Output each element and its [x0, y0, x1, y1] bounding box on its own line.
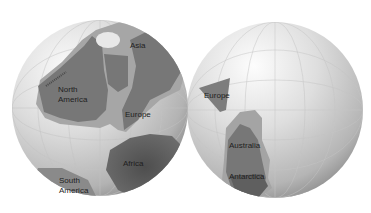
label-africa: Africa [123, 159, 144, 168]
label-north: North [58, 85, 78, 94]
label-asia: Asia [130, 41, 146, 50]
label-america: America [58, 95, 88, 104]
globes-illustration: Europe Australia Antarctica [0, 0, 371, 213]
label-south: South [59, 176, 80, 185]
label-antarctica: Antarctica [229, 172, 265, 181]
left-globe: Asia North America Europe Africa South A… [12, 20, 188, 204]
label-australia: Australia [229, 141, 261, 150]
label-europe-right: Europe [204, 91, 230, 100]
label-europe-left: Europe [125, 110, 151, 119]
right-globe: Europe Australia Antarctica [187, 22, 363, 205]
label-south-america: America [59, 186, 89, 195]
